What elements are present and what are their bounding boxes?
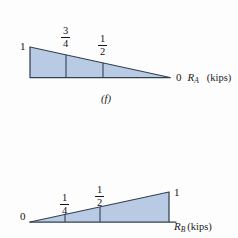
fraction-denominator: 2	[99, 47, 106, 58]
label-ra-ordinate-one-half: 1 2	[98, 34, 107, 57]
axis-label-rb: RB (kips)	[174, 220, 212, 232]
axis-label-ra-units: (kips)	[207, 72, 232, 83]
fraction-numerator: 1	[61, 193, 68, 204]
axis-label-ra-symbol: RA	[188, 71, 199, 83]
fraction-denominator: 4	[61, 206, 68, 217]
figure-caption: (f)	[101, 94, 111, 105]
label-rb-ordinate-one-half: 1 2	[95, 185, 104, 208]
axis-label-ra: 0 RA (kips)	[176, 71, 231, 83]
label-rb-ordinate-zero: 0	[20, 211, 26, 222]
figure-root: 1 3 4 1 2 0 RA (kips) (f) 0 1 4 1 2 1 RB…	[0, 0, 238, 238]
label-ra-ordinate-three-quarters: 3 4	[61, 26, 70, 49]
fraction-numerator: 1	[96, 185, 103, 196]
axis-label-rb-subscript: B	[181, 225, 186, 234]
influence-line-diagram	[0, 0, 238, 238]
axis-label-ra-subscript: A	[194, 76, 199, 85]
fraction-denominator: 2	[96, 198, 103, 209]
fraction-numerator: 3	[62, 26, 69, 37]
label-rb-ordinate-1: 1	[174, 187, 180, 198]
label-ra-ordinate-1: 1	[20, 41, 26, 52]
fraction-numerator: 1	[99, 34, 106, 45]
axis-label-rb-units: (kips)	[187, 221, 212, 232]
label-rb-ordinate-one-quarter: 1 4	[60, 193, 69, 216]
label-ra-ordinate-zero: 0	[176, 71, 182, 83]
axis-label-rb-symbol: RB	[174, 220, 185, 232]
fraction-denominator: 4	[62, 39, 69, 50]
axis-label-rb-letter: R	[174, 220, 181, 232]
